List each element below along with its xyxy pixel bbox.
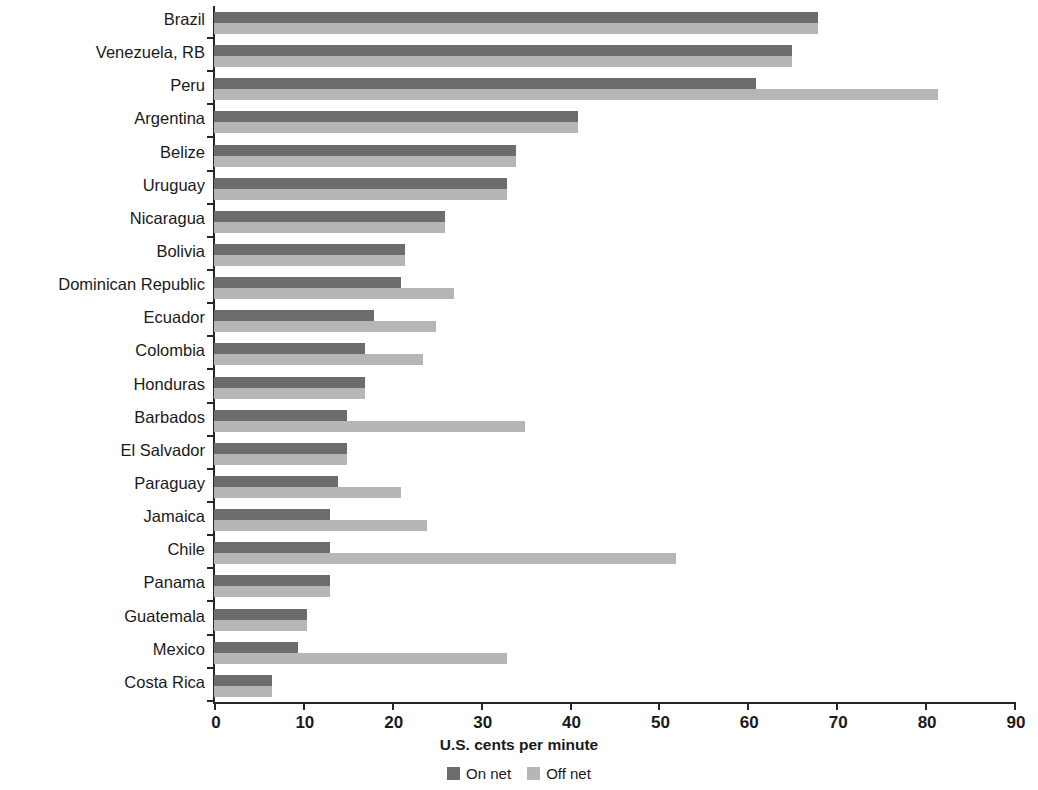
x-axis-tick <box>481 702 483 710</box>
category-label: Jamaica <box>0 504 205 528</box>
y-axis-tick <box>207 534 214 536</box>
bar-on-net <box>214 343 365 354</box>
y-axis-tick <box>207 600 214 602</box>
bar-off-net <box>214 354 423 365</box>
bar-row: Honduras <box>214 371 1014 404</box>
bar-off-net <box>214 586 330 597</box>
x-axis-tick-label: 20 <box>364 713 424 733</box>
bar-off-net <box>214 686 272 697</box>
category-label: Paraguay <box>0 471 205 495</box>
x-axis-tick-label: 40 <box>542 713 602 733</box>
bar-row: Costa Rica <box>214 669 1014 702</box>
legend-item[interactable]: Off net <box>527 765 591 782</box>
bar-row: El Salvador <box>214 437 1014 470</box>
bar-off-net <box>214 89 938 100</box>
y-axis-tick <box>207 335 214 337</box>
bar-on-net <box>214 310 374 321</box>
bar-off-net <box>214 421 525 432</box>
bar-chart: Country BrazilVenezuela, RBPeruArgentina… <box>0 0 1038 790</box>
category-label: El Salvador <box>0 438 205 462</box>
bar-on-net <box>214 111 578 122</box>
y-axis-tick <box>207 435 214 437</box>
category-label: Argentina <box>0 106 205 130</box>
bar-row: Argentina <box>214 105 1014 138</box>
x-axis-tick <box>392 702 394 710</box>
y-axis-tick <box>207 402 214 404</box>
bar-on-net <box>214 78 756 89</box>
legend-item[interactable]: On net <box>447 765 511 782</box>
x-axis-tick <box>214 702 216 710</box>
y-axis-tick <box>207 567 214 569</box>
bar-off-net <box>214 189 507 200</box>
bar-off-net <box>214 122 578 133</box>
category-label: Belize <box>0 140 205 164</box>
y-axis-tick <box>207 170 214 172</box>
bar-on-net <box>214 642 298 653</box>
y-axis-tick <box>207 302 214 304</box>
x-axis-tick-label: 30 <box>453 713 513 733</box>
bar-row: Paraguay <box>214 470 1014 503</box>
y-axis-tick <box>207 269 214 271</box>
bar-on-net <box>214 509 330 520</box>
bar-on-net <box>214 675 272 686</box>
bar-row: Guatemala <box>214 603 1014 636</box>
chart-legend: On netOff net <box>0 765 1038 782</box>
x-axis-tick <box>658 702 660 710</box>
bar-off-net <box>214 23 818 34</box>
y-axis-tick <box>207 667 214 669</box>
x-axis-title: U.S. cents per minute <box>0 736 1038 754</box>
bar-on-net <box>214 609 307 620</box>
bar-on-net <box>214 145 516 156</box>
bar-off-net <box>214 321 436 332</box>
bar-row: Peru <box>214 72 1014 105</box>
x-axis-tick <box>570 702 572 710</box>
bar-on-net <box>214 45 792 56</box>
category-label: Honduras <box>0 372 205 396</box>
category-label: Mexico <box>0 637 205 661</box>
y-axis-tick <box>207 368 214 370</box>
plot-area: BrazilVenezuela, RBPeruArgentinaBelizeUr… <box>214 6 1014 702</box>
x-axis-tick-label: 50 <box>630 713 690 733</box>
bar-on-net <box>214 542 330 553</box>
bar-row: Brazil <box>214 6 1014 39</box>
bar-on-net <box>214 12 818 23</box>
legend-label: Off net <box>546 765 591 782</box>
bar-on-net <box>214 575 330 586</box>
bar-on-net <box>214 178 507 189</box>
x-axis-tick-label: 70 <box>808 713 868 733</box>
bar-off-net <box>214 653 507 664</box>
bar-row: Dominican Republic <box>214 271 1014 304</box>
bar-row: Panama <box>214 569 1014 602</box>
x-axis-tick-label: 10 <box>275 713 335 733</box>
category-label: Bolivia <box>0 239 205 263</box>
x-axis-tick-label: 80 <box>897 713 957 733</box>
x-axis-tick-label: 90 <box>986 713 1038 733</box>
bar-row: Venezuela, RB <box>214 39 1014 72</box>
bar-row: Chile <box>214 536 1014 569</box>
bar-off-net <box>214 56 792 67</box>
bar-row: Bolivia <box>214 238 1014 271</box>
bar-off-net <box>214 222 445 233</box>
bar-off-net <box>214 620 307 631</box>
category-label: Barbados <box>0 405 205 429</box>
bar-row: Jamaica <box>214 503 1014 536</box>
bar-on-net <box>214 244 405 255</box>
bar-on-net <box>214 443 347 454</box>
bar-off-net <box>214 156 516 167</box>
category-label: Colombia <box>0 338 205 362</box>
y-axis-tick <box>207 203 214 205</box>
category-label: Nicaragua <box>0 206 205 230</box>
y-axis-tick <box>207 70 214 72</box>
bar-row: Uruguay <box>214 172 1014 205</box>
bar-off-net <box>214 553 676 564</box>
y-axis-tick <box>207 103 214 105</box>
category-label: Chile <box>0 537 205 561</box>
bar-row: Ecuador <box>214 304 1014 337</box>
category-label: Guatemala <box>0 604 205 628</box>
y-axis-tick <box>207 634 214 636</box>
y-axis-tick <box>207 501 214 503</box>
bar-row: Barbados <box>214 404 1014 437</box>
y-axis-tick <box>207 700 214 702</box>
legend-swatch-icon <box>527 767 540 780</box>
category-label: Ecuador <box>0 305 205 329</box>
